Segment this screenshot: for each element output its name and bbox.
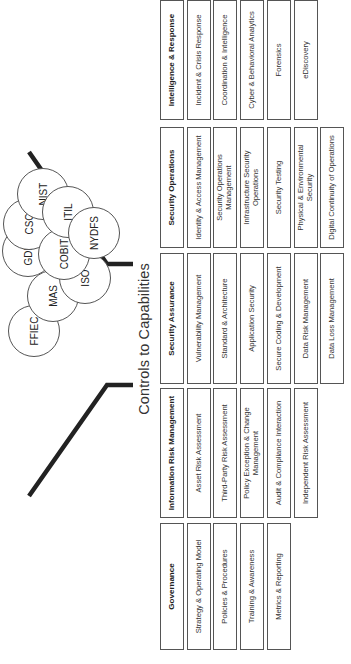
capability-box: Forensics	[267, 0, 291, 120]
capability-box: Data Risk Management	[294, 253, 318, 384]
capability-box: Security Operations Management	[213, 127, 237, 248]
capability-box: Standard & Architecture	[213, 253, 237, 384]
column-heading: Information Risk Management	[160, 388, 184, 518]
capability-box: Application Security	[240, 253, 264, 384]
capability-box: Data Loss Management	[320, 253, 344, 384]
capability-box: Audit & Compliance Interaction	[267, 388, 291, 518]
capability-box: Physical & Environmental Security	[294, 127, 318, 248]
controls-to-capabilities-diagram: FFIEC MAS ISO GDPR CSC NIST COBIT ITIL N…	[0, 0, 351, 664]
capability-box: Incident & Crisis Response	[187, 0, 211, 120]
column-heading: Security Operations	[160, 127, 184, 248]
column-security-assurance: Security Assurance Vulnerability Managem…	[0, 253, 351, 384]
capability-box: eDiscovery	[294, 0, 318, 120]
capability-box: Digital Continuity of Operations	[320, 127, 344, 248]
column-information-risk-management: Information Risk Management Asset Risk A…	[0, 388, 351, 518]
capability-box: Asset Risk Assessment	[187, 388, 211, 518]
capability-box: Training & Awareness	[240, 523, 264, 650]
capability-box: Metrics & Reporting	[267, 523, 291, 650]
capability-box: Policies & Procedures	[213, 523, 237, 650]
capability-box: Vulnerability Management	[187, 253, 211, 384]
column-heading: Security Assurance	[160, 253, 184, 384]
capability-box: Security Testing	[267, 127, 291, 248]
capability-box: Independent Risk Assessment	[294, 388, 318, 518]
capability-box: Secure Coding & Development	[267, 253, 291, 384]
capability-box: Coordination & Intelligence	[213, 0, 237, 120]
column-intelligence-response: Intelligence & Response Incident & Crisi…	[0, 0, 351, 120]
capability-box: Strategy & Operating Model	[187, 523, 211, 650]
capability-box: Policy Exception & Change Management	[240, 388, 264, 518]
column-heading: Intelligence & Response	[160, 0, 184, 120]
capability-box: Third-Party Risk Assessment	[213, 388, 237, 518]
capability-box: Infrastructure Security Operations	[240, 127, 264, 248]
column-security-operations: Security Operations Identity & Access Ma…	[0, 127, 351, 248]
capability-box: Identity & Access Management	[187, 127, 211, 248]
column-heading: Governance	[160, 523, 184, 650]
capability-box: Cyber & Behavioral Analytics	[240, 0, 264, 120]
column-governance: Governance Strategy & Operating Model Po…	[0, 523, 351, 650]
